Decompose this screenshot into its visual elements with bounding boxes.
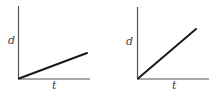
distance-time-line-steep xyxy=(138,29,196,79)
graph-left: d t xyxy=(8,6,90,92)
graphs-figure: d t d t xyxy=(0,0,218,92)
y-axis-label: d xyxy=(126,35,133,48)
distance-time-line-shallow xyxy=(19,53,87,79)
graph-right: d t xyxy=(126,7,209,92)
y-axis-label: d xyxy=(8,34,15,47)
x-axis-label: t xyxy=(172,79,177,92)
x-axis-label: t xyxy=(52,79,57,92)
